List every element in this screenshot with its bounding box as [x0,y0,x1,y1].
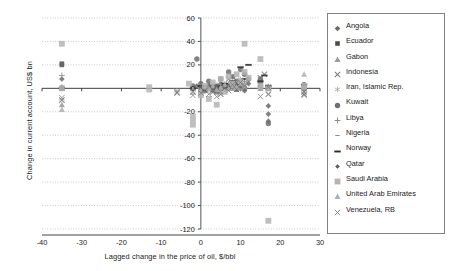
circle-icon [332,97,343,108]
data-point [258,94,263,99]
data-point [194,56,199,61]
legend-item-qatar[interactable]: Qatar [332,156,444,171]
data-point [60,63,65,68]
data-point [301,71,307,77]
data-point [258,56,264,62]
y-tick-label: 20 [157,60,195,69]
legend-label: Indonesia [346,68,378,75]
legend-item-angola[interactable]: Angola [332,18,444,33]
y-tick-label: -100 [157,201,195,210]
legend-label: Saudi Arabia [346,175,388,182]
data-point [335,72,340,77]
legend-item-united-arab-emirates[interactable]: United Arab Emirates [332,186,444,201]
data-point [335,42,340,47]
legend-label: Venezuela, RB [346,206,395,213]
legend-label: Norway [346,144,371,151]
data-point [266,103,272,109]
data-point [234,71,240,77]
x-tick-label: -30 [66,238,98,247]
gridlines-group [42,18,320,229]
x-tick-label: -40 [26,238,58,247]
legend-item-iran-islamic-rep[interactable]: Iran, Islamic Rep. [332,79,444,94]
legend-item-venezuela-rb[interactable]: Venezuela, RB [332,202,444,217]
legend-label: Ecuador [346,37,374,44]
legend-label: Qatar [346,160,364,167]
data-point [246,75,252,81]
y-tick-label: 0 [157,84,195,93]
data-point [335,56,341,62]
square-light-icon [332,173,343,184]
legend-item-libya[interactable]: Libya [332,110,444,125]
y-tick-label: -20 [157,107,195,116]
y-tick-label: -120 [157,225,195,234]
chart-legend: AngolaEcuadorGabonIndonesiaIran, Islamic… [327,13,445,234]
diamond-icon [332,20,343,31]
legend-label: Nigeria [346,129,369,136]
data-point [335,118,341,124]
data-point [242,41,248,47]
scatter-chart-figure: Change in current account, US$ bn Lagged… [0,0,449,271]
dash-small-icon [332,127,343,138]
x-thin-icon [332,204,343,215]
legend-item-saudi-arabia[interactable]: Saudi Arabia [332,171,444,186]
data-point [59,73,65,79]
y-tick-label: -40 [157,131,195,140]
data-point [335,164,340,169]
legend-label: Libya [346,114,364,121]
x-icon [332,66,343,77]
legend-label: United Arab Emirates [346,190,416,197]
data-point [335,87,340,92]
y-tick-label: 40 [157,37,195,46]
x-tick-label: 0 [185,238,217,247]
tick-marks-group [42,18,320,229]
data-point [59,41,65,47]
data-point [190,118,196,124]
legend-label: Kuwait [346,98,368,105]
data-point [265,218,271,224]
data-point [335,194,341,200]
data-point [335,102,340,107]
legend-label: Iran, Islamic Rep. [346,83,404,90]
plus-icon [332,112,343,123]
data-point [226,74,232,80]
x-tick-label: -20 [105,238,137,247]
data-point [335,179,341,185]
x-tick-label: 20 [264,238,296,247]
dash-bold-icon [332,143,343,154]
x-tick-label: 30 [304,238,336,247]
data-point [59,85,65,91]
data-point [335,26,341,32]
legend-item-norway[interactable]: Norway [332,140,444,155]
legend-item-kuwait[interactable]: Kuwait [332,94,444,109]
asterisk-icon [332,81,343,92]
legend-item-ecuador[interactable]: Ecuador [332,33,444,48]
data-point [218,76,224,82]
data-point [335,210,340,215]
y-tick-label: -60 [157,154,195,163]
data-point [206,96,212,102]
triangle-light-icon [332,188,343,199]
triangle-icon [332,51,343,62]
y-tick-label: -80 [157,178,195,187]
legend-label: Angola [346,22,369,29]
data-point [266,121,271,126]
square-icon [332,35,343,46]
x-tick-label: 10 [225,238,257,247]
legend-item-nigeria[interactable]: Nigeria [332,125,444,140]
data-point [242,69,248,75]
legend-label: Gabon [346,53,368,60]
legend-item-gabon[interactable]: Gabon [332,49,444,64]
data-point [146,84,152,90]
x-tick-label: -10 [145,238,177,247]
data-point [214,102,220,108]
diamond-small-icon [332,158,343,169]
y-tick-label: 60 [157,14,195,23]
data-point [266,91,271,96]
legend-item-indonesia[interactable]: Indonesia [332,64,444,79]
